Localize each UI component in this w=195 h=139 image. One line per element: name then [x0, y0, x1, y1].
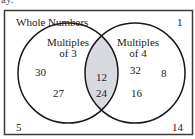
set3-value: 30	[35, 67, 46, 78]
intersection-value: 24	[96, 88, 107, 99]
intersection-value: 12	[96, 72, 107, 83]
set4-value: 16	[131, 88, 142, 99]
set-label-3-line2: of 3	[59, 48, 76, 59]
universe-label: Whole Numbers	[16, 17, 88, 28]
outside-value: 5	[16, 122, 22, 133]
set3-value: 27	[53, 88, 64, 99]
outside-value: 1	[177, 17, 183, 28]
set-label-4-line2: of 4	[129, 48, 146, 59]
outside-value: 14	[172, 122, 183, 133]
set4-value: 8	[161, 68, 167, 79]
set4-value: 32	[130, 65, 141, 76]
